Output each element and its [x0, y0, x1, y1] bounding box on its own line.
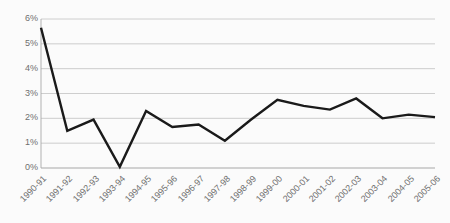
line-chart: 0%1%2%3%4%5%6% 1990-911991-921992-931993…	[0, 0, 450, 223]
x-tick-label: 1990-91	[0, 174, 48, 223]
x-axis-tick-labels: 1990-911991-921992-931993-941994-951995-…	[0, 0, 450, 223]
